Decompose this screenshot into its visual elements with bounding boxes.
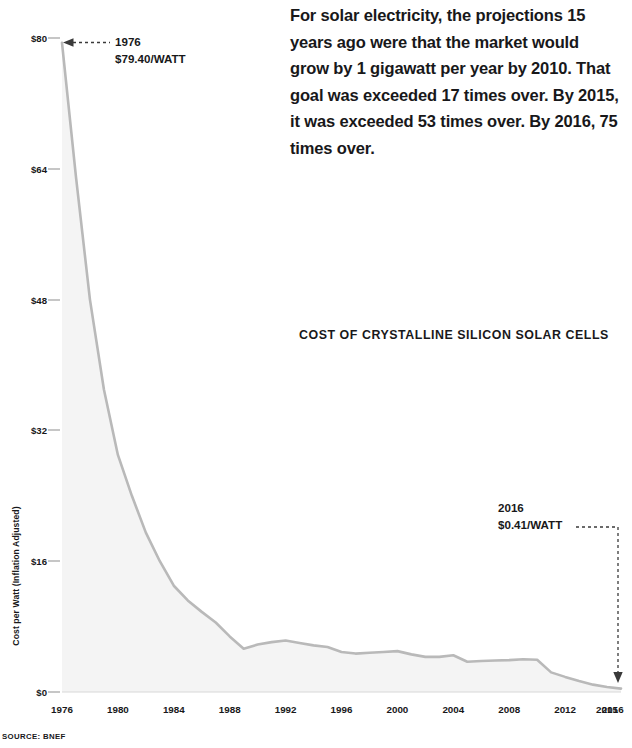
annotation-2016-year: 2016	[498, 499, 562, 516]
leader-2016	[576, 527, 623, 683]
line-chart-plot	[0, 0, 632, 748]
annotation-1976: 1976 $79.40/WATT	[115, 33, 186, 67]
annotation-2016: 2016 $0.41/WATT	[498, 499, 562, 533]
annotation-1976-value: $79.40/WATT	[115, 50, 186, 67]
annotation-1976-year: 1976	[115, 33, 186, 50]
source-note: SOURCE: BNEF	[2, 732, 66, 741]
annotation-2016-value: $0.41/WATT	[498, 516, 562, 533]
area-fill	[62, 43, 621, 692]
leader-1976	[63, 38, 110, 47]
